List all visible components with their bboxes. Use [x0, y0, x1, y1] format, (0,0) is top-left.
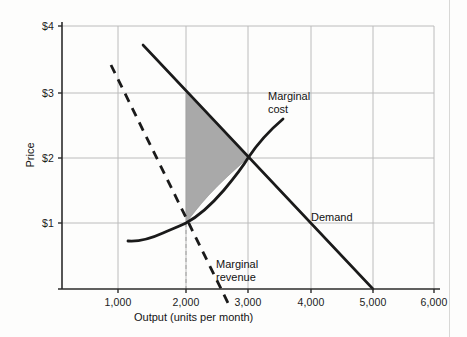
- x-tick-label-3000: 3,000: [226, 296, 270, 308]
- y-axis-title: Price: [24, 132, 36, 178]
- marginal-cost-label-line1: Marginal: [268, 90, 310, 103]
- marginal-revenue-label-line1: Marginal: [216, 258, 258, 271]
- demand-label: Demand: [311, 211, 353, 224]
- y-tick-label-1: $1: [32, 217, 54, 229]
- x-tick-label-4000: 4,000: [289, 296, 333, 308]
- marginal-revenue-label-line2: revenue: [216, 271, 258, 284]
- chart-canvas: [0, 0, 467, 337]
- economics-figure: $4 $3 $2 $1 1,000 2,000 3,000 4,000 5,00…: [0, 0, 467, 337]
- x-tick-label-2000: 2,000: [164, 296, 208, 308]
- y-tick-label-4: $4: [32, 20, 54, 32]
- x-axis-title: Output (units per month): [134, 311, 253, 323]
- x-tick-label-5000: 5,000: [351, 296, 395, 308]
- demand-curve: [143, 45, 373, 289]
- marginal-revenue-label: Marginal revenue: [216, 258, 258, 283]
- marginal-cost-label: Marginal cost: [268, 90, 310, 115]
- y-tick-label-3: $3: [32, 87, 54, 99]
- marginal-cost-label-line2: cost: [268, 103, 310, 116]
- x-tick-label-1000: 1,000: [96, 296, 140, 308]
- shaded-region-fill-main: [186, 93, 248, 223]
- page-edge-line: [449, 0, 450, 337]
